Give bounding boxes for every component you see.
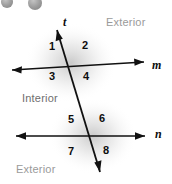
shading-upper-intersection [25,23,117,103]
decorative-dot-right-icon [28,0,42,10]
angle-label-5: 5 [68,114,74,125]
line-label-m: m [152,59,161,71]
line-label-n: n [155,128,162,140]
geometry-figure: t m n 1 2 3 4 5 6 7 8 Exterior Interior … [0,0,172,184]
angle-label-3: 3 [49,71,55,82]
decorative-dot-left-icon [1,0,13,8]
angle-label-7: 7 [68,146,74,157]
region-label-interior: Interior [22,93,58,104]
angle-label-8: 8 [103,145,109,156]
angle-label-1: 1 [49,41,55,52]
line-label-t: t [63,16,66,28]
region-label-exterior-top: Exterior [106,17,146,28]
angle-label-2: 2 [82,40,88,51]
angle-label-4: 4 [83,71,89,82]
angle-label-6: 6 [99,113,105,124]
region-label-exterior-bottom: Exterior [16,164,56,175]
